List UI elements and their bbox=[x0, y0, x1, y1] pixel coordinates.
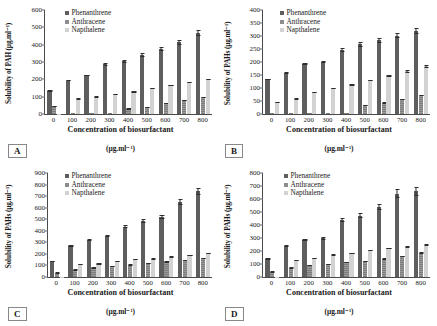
x-tick-label: 800 bbox=[193, 116, 212, 123]
error-bar bbox=[151, 88, 152, 89]
bar-anthracene bbox=[326, 113, 330, 114]
x-tick-label: 700 bbox=[175, 116, 194, 123]
bar-group bbox=[194, 10, 213, 114]
y-tick-label: 500 bbox=[234, 208, 263, 216]
error-bar bbox=[304, 239, 305, 241]
legend-swatch-icon bbox=[65, 183, 69, 187]
bar-napthalene bbox=[113, 94, 117, 114]
error-bar bbox=[171, 257, 172, 258]
legend-swatch-icon bbox=[284, 183, 288, 187]
bar-napthalene bbox=[150, 88, 154, 114]
panel-C: Solubility of PAHs (µg.ml⁻¹) 01002003004… bbox=[0, 163, 219, 326]
bar-phenanthrene bbox=[141, 221, 145, 277]
bar-anthracene bbox=[91, 268, 95, 277]
y-tick-label: 400 bbox=[234, 221, 263, 229]
bar-anthracene bbox=[89, 113, 93, 114]
bar-anthracene bbox=[270, 113, 274, 114]
error-bar bbox=[323, 237, 324, 239]
bar-napthalene bbox=[94, 97, 98, 114]
error-bar bbox=[369, 250, 370, 251]
x-axis-title-C: Concentration of biosurfactant bbox=[27, 288, 214, 298]
bar-phenanthrene bbox=[66, 81, 70, 114]
bar-anthracene bbox=[128, 265, 132, 277]
error-bar bbox=[360, 42, 361, 46]
legend-item: Napthalene bbox=[280, 26, 326, 35]
y-tick-label: 0 bbox=[19, 273, 48, 281]
y-tick-label: 500 bbox=[19, 215, 48, 223]
x-tick-label: 200 bbox=[299, 116, 318, 123]
bar-anthracene bbox=[145, 107, 149, 114]
bar-group bbox=[412, 173, 431, 277]
legend-label: Napthalene bbox=[287, 26, 320, 35]
bar-anthracene bbox=[73, 270, 77, 277]
bar-phenanthrene bbox=[265, 259, 269, 277]
error-bar bbox=[267, 79, 268, 80]
y-tick-label: 400 bbox=[19, 227, 48, 235]
legend-label: Napthalene bbox=[291, 189, 324, 198]
x-tick-label: 700 bbox=[175, 279, 193, 286]
y-tick-label: 100 bbox=[234, 84, 263, 92]
error-bar bbox=[179, 40, 180, 45]
bar-group bbox=[337, 10, 356, 114]
x-tick-label: 200 bbox=[84, 279, 102, 286]
bar-phenanthrene bbox=[284, 73, 288, 114]
x-tick-label: 100 bbox=[281, 279, 300, 286]
bar-anthracene bbox=[164, 262, 168, 277]
error-bar bbox=[415, 28, 416, 33]
x-tick-label: 200 bbox=[81, 116, 100, 123]
y-tick-label: 200 bbox=[19, 250, 48, 258]
bar-anthracene bbox=[108, 113, 112, 114]
bar-anthracene bbox=[201, 98, 205, 114]
bar-phenanthrene bbox=[140, 55, 144, 114]
panel-D: Solubility of PAHs (µg.ml⁻¹) 01002003004… bbox=[219, 163, 437, 326]
bar-napthalene bbox=[424, 66, 428, 114]
bar-phenanthrene bbox=[265, 79, 269, 114]
bar-napthalene bbox=[368, 250, 372, 277]
bar-anthracene bbox=[419, 96, 423, 114]
y-tick-label: 400 bbox=[234, 6, 263, 14]
legend-swatch-icon bbox=[65, 20, 69, 24]
y-axis-title-A: Solubility of PAH (µg.ml⁻¹) bbox=[2, 4, 15, 122]
bar-group bbox=[263, 10, 282, 114]
x-tick-label: 300 bbox=[318, 279, 337, 286]
bar-napthalene bbox=[331, 88, 335, 114]
legend-swatch-icon bbox=[65, 174, 69, 178]
error-bar bbox=[332, 255, 333, 256]
legend-item: Napthalene bbox=[65, 189, 111, 198]
x-tick-labels-C: 0100200300400500600700800 bbox=[47, 279, 212, 286]
x-tick-label: 400 bbox=[120, 279, 138, 286]
bar-phenanthrene bbox=[47, 91, 51, 114]
x-axis-title-B: Concentration of biosurfactant bbox=[246, 125, 432, 135]
error-bar bbox=[67, 80, 68, 81]
bar-napthalene bbox=[312, 258, 316, 277]
y-tick-label: 250 bbox=[234, 45, 263, 53]
bar-phenanthrene bbox=[50, 261, 54, 277]
error-bar bbox=[125, 225, 126, 228]
bar-anthracene bbox=[344, 113, 348, 114]
error-bar bbox=[161, 215, 162, 219]
bar-napthalene bbox=[78, 264, 82, 277]
error-bar bbox=[197, 30, 198, 35]
bar-anthracene bbox=[126, 109, 130, 114]
panel-letter-D: D bbox=[225, 307, 244, 321]
bar-group bbox=[156, 10, 175, 114]
bar-phenanthrene bbox=[395, 36, 399, 114]
bar-anthracene bbox=[344, 262, 348, 277]
error-bar bbox=[397, 33, 398, 38]
x-tick-label: 600 bbox=[157, 279, 175, 286]
x-tick-label: 500 bbox=[355, 116, 374, 123]
error-bar bbox=[70, 245, 71, 247]
x-tick-label: 500 bbox=[137, 116, 156, 123]
error-bar bbox=[397, 189, 398, 197]
bar-phenanthrene bbox=[358, 216, 362, 277]
bar-anthracene bbox=[289, 113, 293, 114]
error-bar bbox=[425, 65, 426, 68]
error-bar bbox=[170, 85, 171, 86]
bar-group bbox=[374, 10, 393, 114]
error-bar bbox=[378, 204, 379, 210]
legend-swatch-icon bbox=[280, 11, 284, 15]
bar-group bbox=[412, 10, 431, 114]
bar-phenanthrene bbox=[414, 31, 418, 114]
x-tick-label: 500 bbox=[139, 279, 157, 286]
bar-napthalene bbox=[275, 102, 279, 114]
